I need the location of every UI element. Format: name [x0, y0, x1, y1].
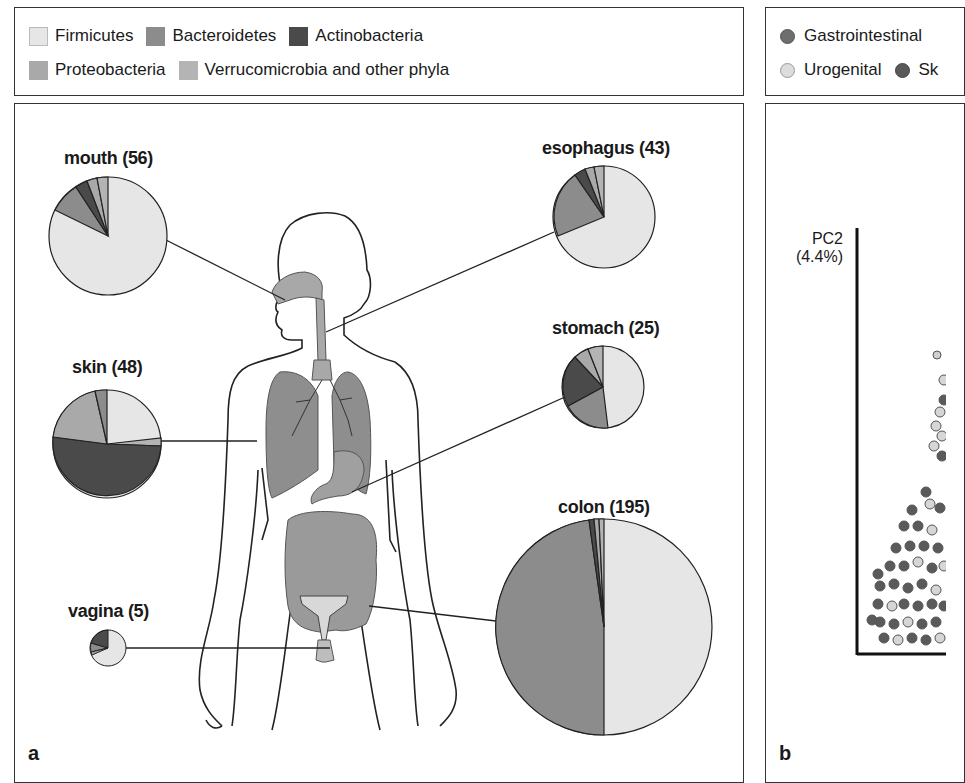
pc2-axis-title: PC2	[770, 230, 843, 248]
esophagus-pie-chart	[553, 166, 655, 268]
esophagus-pie-label: esophagus (43)	[542, 138, 670, 159]
colon-pie-chart	[496, 519, 712, 735]
vagina-pie-chart	[90, 630, 126, 666]
pcoa-scatter-points	[867, 351, 946, 645]
skin-pie-label: skin (48)	[72, 357, 142, 378]
colon-pie-label: colon (195)	[558, 497, 650, 518]
pc2-axis-label: PC2 (4.4%)	[770, 230, 843, 266]
mouth-pie-label: mouth (56)	[64, 148, 153, 169]
panel-a-letter: a	[28, 742, 39, 765]
mouth-pie-chart	[49, 177, 167, 295]
skin-pie-chart	[53, 390, 161, 498]
panel-b-letter: b	[779, 742, 791, 765]
pc2-axis-percent: (4.4%)	[770, 248, 843, 266]
stomach-pie-label: stomach (25)	[552, 318, 659, 339]
stomach-pie-chart	[562, 346, 644, 428]
vagina-pie-label: vagina (5)	[68, 601, 149, 622]
